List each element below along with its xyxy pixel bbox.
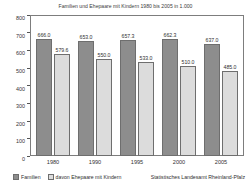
y-axis-tick: 200: [16, 117, 30, 125]
bar[interactable]: 485.0: [222, 71, 238, 156]
bar[interactable]: 533.0: [138, 62, 154, 156]
y-axis-tick: 300: [16, 99, 30, 107]
y-axis-tick: 700: [16, 29, 30, 37]
y-axis: 8007006005004003002001000: [0, 15, 30, 156]
chart-title: Familien und Ehepaare mit Kindern 1980 b…: [0, 3, 251, 9]
bar[interactable]: 637.0: [204, 44, 220, 156]
y-axis-tick: 100: [16, 134, 30, 142]
bar-value-label: 662.3: [164, 32, 177, 38]
x-axis-tick-label: 1990: [74, 156, 116, 168]
bar[interactable]: 550.0: [96, 59, 112, 156]
bar-group: 653.0550.0: [74, 15, 116, 156]
x-axis-tick-label: 2000: [158, 156, 200, 168]
x-axis: 19801990199520002005: [30, 156, 244, 168]
bar-value-label: 485.0: [224, 64, 237, 70]
y-axis-tick-label: 0: [22, 156, 27, 162]
bar[interactable]: 662.3: [162, 39, 178, 156]
bar-value-label: 579.6: [56, 47, 69, 53]
x-axis-tick-label: 1995: [116, 156, 158, 168]
y-axis-tick-label: 400: [16, 86, 27, 92]
legend-item-familien[interactable]: Familien: [13, 174, 41, 180]
y-axis-tick: 600: [16, 46, 30, 54]
legend-swatch-familien: [13, 174, 19, 180]
bar[interactable]: 510.0: [180, 66, 196, 156]
bar-value-label: 550.0: [98, 52, 111, 58]
y-axis-tick-label: 500: [16, 68, 27, 74]
bar-group: 657.3533.0: [116, 15, 158, 156]
bar-value-label: 666.0: [38, 32, 51, 38]
source-note: Statistisches Landesamt Rheinland-Pfalz: [151, 174, 245, 180]
bar-group: 637.0485.0: [200, 15, 242, 156]
bars-layer: 666.0579.6653.0550.0657.3533.0662.3510.0…: [30, 15, 244, 156]
legend: Familien davon Ehepaare mit Kindern: [13, 174, 121, 180]
y-axis-tick: 800: [16, 11, 30, 19]
bar[interactable]: 653.0: [78, 41, 94, 156]
y-axis-tick: 0: [22, 152, 30, 160]
legend-label-familien: Familien: [21, 174, 41, 180]
y-axis-tick: 400: [16, 82, 30, 90]
bar-value-label: 637.0: [206, 37, 219, 43]
bar-value-label: 653.0: [80, 34, 93, 40]
chart-container: Familien und Ehepaare mit Kindern 1980 b…: [0, 0, 251, 187]
x-axis-tick-label: 2005: [200, 156, 242, 168]
y-axis-tick-label: 100: [16, 138, 27, 144]
bar-group: 666.0579.6: [32, 15, 74, 156]
legend-item-ehepaare[interactable]: davon Ehepaare mit Kindern: [48, 174, 122, 180]
legend-swatch-ehepaare: [48, 174, 54, 180]
y-axis-tick-label: 800: [16, 15, 27, 21]
bar[interactable]: 579.6: [54, 54, 70, 156]
y-axis-tick-label: 200: [16, 121, 27, 127]
bar-group: 662.3510.0: [158, 15, 200, 156]
chart-footer: Familien davon Ehepaare mit Kindern Stat…: [0, 170, 251, 184]
y-axis-tick-label: 300: [16, 103, 27, 109]
y-axis-tick-label: 600: [16, 50, 27, 56]
bar-value-label: 657.3: [122, 33, 135, 39]
bar-value-label: 533.0: [140, 55, 153, 61]
x-axis-tick-label: 1980: [32, 156, 74, 168]
y-axis-tick: 500: [16, 64, 30, 72]
bar[interactable]: 666.0: [36, 39, 52, 156]
legend-label-ehepaare: davon Ehepaare mit Kindern: [56, 174, 122, 180]
bar-value-label: 510.0: [182, 59, 195, 65]
bar[interactable]: 657.3: [120, 40, 136, 156]
y-axis-tick-label: 700: [16, 33, 27, 39]
